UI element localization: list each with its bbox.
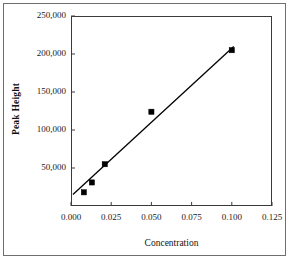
y-tick-label: 250,000 (8, 11, 66, 20)
x-tick-label: 0.125 (252, 213, 290, 222)
best-fit-line (73, 46, 234, 194)
y-tick-label: 50,000 (8, 163, 66, 172)
y-axis-ticks (71, 16, 75, 168)
y-axis-title: Peak Height (11, 74, 21, 144)
x-tick-label: 0.075 (172, 213, 212, 222)
x-axis-ticks (71, 202, 272, 206)
chart-page: 250,000200,000150,000100,00050,000 0.000… (0, 0, 290, 260)
data-markers (81, 48, 234, 195)
x-tick-label: 0.000 (51, 213, 91, 222)
y-tick-label: 200,000 (8, 49, 66, 58)
x-tick-label: 0.025 (91, 213, 131, 222)
x-tick-label: 0.050 (131, 213, 171, 222)
x-tick-label: 0.100 (212, 213, 252, 222)
x-axis-title: Concentration (71, 238, 272, 248)
